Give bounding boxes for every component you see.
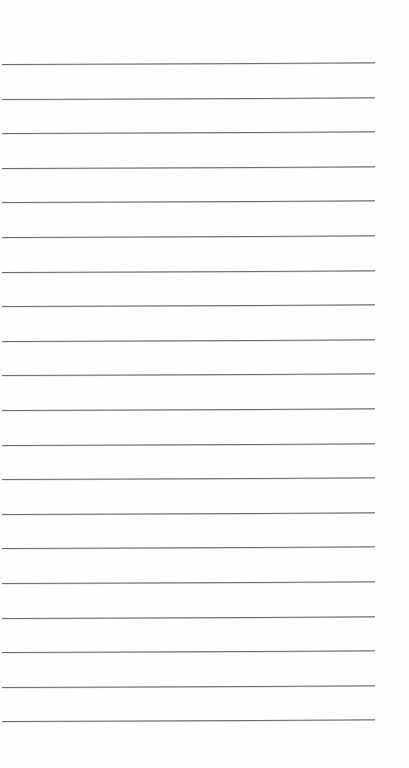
ruled-line (2, 200, 375, 203)
ruled-line (2, 685, 375, 688)
ruled-line (2, 62, 375, 65)
ruled-line (2, 650, 375, 653)
ruled-line (2, 719, 375, 722)
ruled-line (2, 408, 375, 411)
ruled-line (2, 270, 375, 273)
ruled-line (2, 166, 375, 169)
ruled-line (2, 616, 375, 619)
ruled-line (2, 339, 375, 342)
ruled-line (2, 443, 375, 446)
ruled-line (2, 235, 375, 238)
ruled-line (2, 304, 375, 307)
ruled-line (2, 131, 375, 134)
ruled-line (2, 373, 375, 376)
ruled-line (2, 97, 375, 100)
ruled-line (2, 546, 375, 549)
ruled-line (2, 512, 375, 515)
lined-paper-page (0, 0, 409, 768)
ruled-line (2, 581, 375, 584)
ruled-line (2, 477, 375, 480)
